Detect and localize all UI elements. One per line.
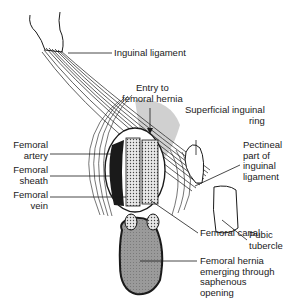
label-femoral-sheath: Femoral sheath bbox=[4, 165, 48, 186]
femoral-vein-shape bbox=[126, 138, 140, 206]
label-femoral-canal: Femoral canal bbox=[200, 228, 260, 239]
label-superficial-inguinal-ring: Superficial inguinal ring bbox=[185, 105, 265, 126]
label-inguinal-ligament: Inguinal ligament bbox=[114, 48, 186, 59]
hernia-neck-left bbox=[125, 214, 137, 230]
femoral-canal-shape bbox=[142, 140, 158, 204]
label-entry-to-femoral-hernia: Entry to femoral hernia bbox=[122, 83, 183, 104]
superficial-inguinal-ring bbox=[185, 145, 203, 183]
anterior-superior-iliac-spine bbox=[30, 12, 64, 52]
label-femoral-artery: Femoral artery bbox=[4, 140, 48, 161]
label-femoral-hernia: Femoral hernia emerging through saphenou… bbox=[200, 256, 274, 298]
hernia-neck-right bbox=[147, 214, 159, 230]
pubic-tubercle bbox=[213, 186, 238, 233]
label-femoral-vein: Femoral vein bbox=[4, 190, 48, 211]
label-pectineal-part: Pectineal part of inguinal ligament bbox=[243, 140, 282, 182]
